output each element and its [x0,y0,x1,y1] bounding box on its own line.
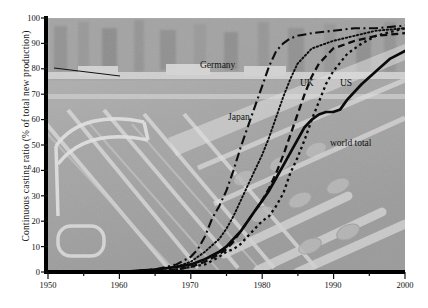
annotation-japan: Japan [228,112,250,122]
y-axis-ticks [36,16,50,276]
annotation-uk: UK [300,78,314,88]
x-axis-ticks [46,272,408,282]
annotation-us: US [340,78,352,88]
annotation-germany: Germany [200,60,235,70]
chart-figure: Continuous casting ratio (% of total new… [0,0,428,308]
annotation-world-total: world total [330,138,371,148]
